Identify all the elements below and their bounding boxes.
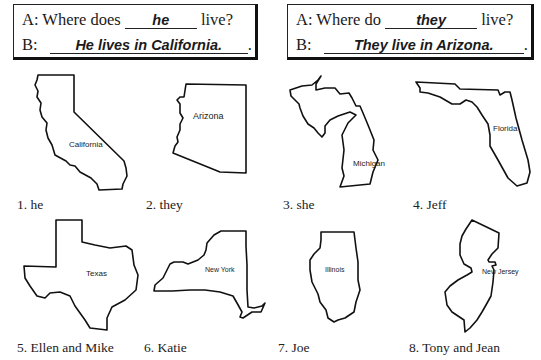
item-caption-6: 6. Katie — [144, 340, 187, 356]
new-jersey-outline-icon — [0, 0, 541, 360]
item-caption-5: 5. Ellen and Mike — [17, 340, 114, 356]
state-newjersey-map — [0, 0, 541, 360]
item-caption-7: 7. Joe — [278, 340, 310, 356]
state-label-newjersey: New Jersey — [482, 268, 519, 275]
item-caption-8: 8. Tony and Jean — [409, 340, 500, 356]
